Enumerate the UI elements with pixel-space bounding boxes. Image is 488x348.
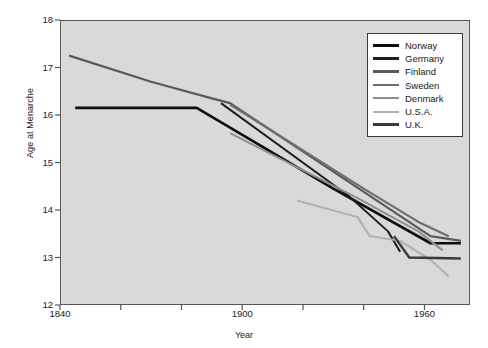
legend-item-finland[interactable]: Finland <box>373 65 458 78</box>
legend-item-label: U.K. <box>405 118 423 131</box>
legend-item-label: Denmark <box>405 92 444 105</box>
legend-item-norway[interactable]: Norway <box>373 39 458 52</box>
y-tick-label: 14 <box>19 204 53 215</box>
legend-item-label: Norway <box>405 39 437 52</box>
legend-swatch-icon <box>373 97 399 99</box>
legend-item-uk[interactable]: U.K. <box>373 118 458 131</box>
x-tick-label: 1900 <box>212 308 272 319</box>
legend-swatch-icon <box>373 123 399 126</box>
y-axis-title: Age at Menarche <box>25 63 35 183</box>
legend-item-germany[interactable]: Germany <box>373 52 458 65</box>
legend-item-label: Sweden <box>405 79 439 92</box>
legend-swatch-icon <box>373 111 399 113</box>
legend-item-sweden[interactable]: Sweden <box>373 79 458 92</box>
chart-canvas: 18171615141312 184019001960 Age at Menar… <box>0 0 488 348</box>
legend-swatch-icon <box>373 44 399 47</box>
legend-item-label: U.S.A. <box>405 105 432 118</box>
x-tick-label: 1840 <box>30 308 90 319</box>
legend-item-denmark[interactable]: Denmark <box>373 92 458 105</box>
legend-swatch-icon <box>373 84 399 86</box>
legend-item-usa[interactable]: U.S.A. <box>373 105 458 118</box>
x-axis-title: Year <box>0 330 488 340</box>
legend-item-label: Finland <box>405 65 436 78</box>
y-tick-label: 13 <box>19 252 53 263</box>
legend-swatch-icon <box>373 57 399 60</box>
legend-swatch-icon <box>373 70 399 73</box>
y-tick-label: 18 <box>19 14 53 25</box>
legend: NorwayGermanyFinlandSwedenDenmarkU.S.A.U… <box>367 33 463 137</box>
x-tick-label: 1960 <box>394 308 454 319</box>
legend-item-label: Germany <box>405 52 444 65</box>
